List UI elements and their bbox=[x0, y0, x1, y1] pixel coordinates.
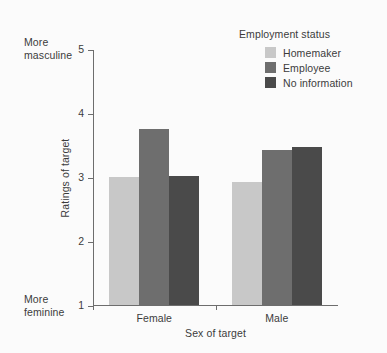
x-tick-1 bbox=[216, 306, 217, 310]
y-tick-2: 2 bbox=[88, 242, 93, 243]
y-tick-label-2: 2 bbox=[78, 235, 84, 248]
y-axis-line bbox=[93, 50, 94, 306]
y-tick-5: 5 bbox=[88, 50, 93, 51]
bar-male-employee bbox=[262, 150, 292, 305]
y-tick-label-5: 5 bbox=[78, 43, 84, 56]
plot-area: 12345 FemaleMale bbox=[93, 50, 338, 306]
y-tick-3: 3 bbox=[88, 178, 93, 179]
bar-female-employee bbox=[139, 129, 169, 305]
y-tick-4: 4 bbox=[88, 114, 93, 115]
y-tick-label-3: 3 bbox=[78, 171, 84, 184]
y-tick-label-4: 4 bbox=[78, 107, 84, 120]
bar-female-no-information bbox=[169, 176, 199, 305]
x-tick-0 bbox=[93, 306, 94, 310]
y-axis-title-text: Ratings of target bbox=[59, 139, 71, 218]
bar-female-homemaker bbox=[109, 177, 139, 305]
x-group-label-male: Male bbox=[265, 312, 288, 324]
bar-male-homemaker bbox=[232, 182, 262, 305]
y-axis-title: Ratings of target bbox=[58, 50, 72, 306]
x-axis-title: Sex of target bbox=[93, 327, 338, 339]
bar-chart: Employment status Homemaker Employee No … bbox=[0, 0, 387, 353]
legend-title: Employment status bbox=[239, 28, 387, 40]
bar-male-no-information bbox=[292, 147, 322, 305]
x-group-label-female: Female bbox=[136, 312, 172, 324]
y-tick-label-1: 1 bbox=[78, 299, 84, 312]
